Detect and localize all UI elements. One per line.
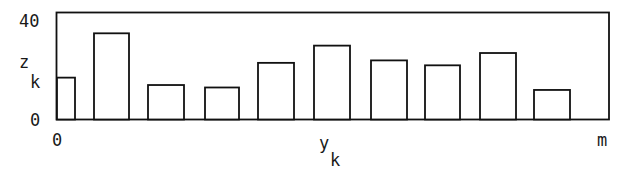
x-tick-right: m xyxy=(597,132,607,149)
bar-7 xyxy=(371,60,407,119)
bar-5 xyxy=(258,63,294,120)
bar-2 xyxy=(94,33,129,119)
bar-4 xyxy=(205,87,239,119)
bar-1 xyxy=(57,78,75,120)
bars-group xyxy=(57,33,570,119)
bar-8 xyxy=(425,65,460,119)
y-axis-subscript: k xyxy=(30,74,40,91)
bar-9 xyxy=(480,53,516,119)
bar-6 xyxy=(314,46,350,120)
x-axis-subscript: k xyxy=(330,152,340,169)
bar-chart xyxy=(0,0,621,181)
bar-3 xyxy=(148,85,184,119)
y-tick-bottom: 0 xyxy=(30,112,40,129)
x-axis-name: y xyxy=(319,135,329,152)
y-tick-top: 40 xyxy=(19,13,39,30)
y-axis-name: z xyxy=(19,54,29,71)
x-tick-left: 0 xyxy=(52,132,62,149)
bar-10 xyxy=(534,90,570,120)
